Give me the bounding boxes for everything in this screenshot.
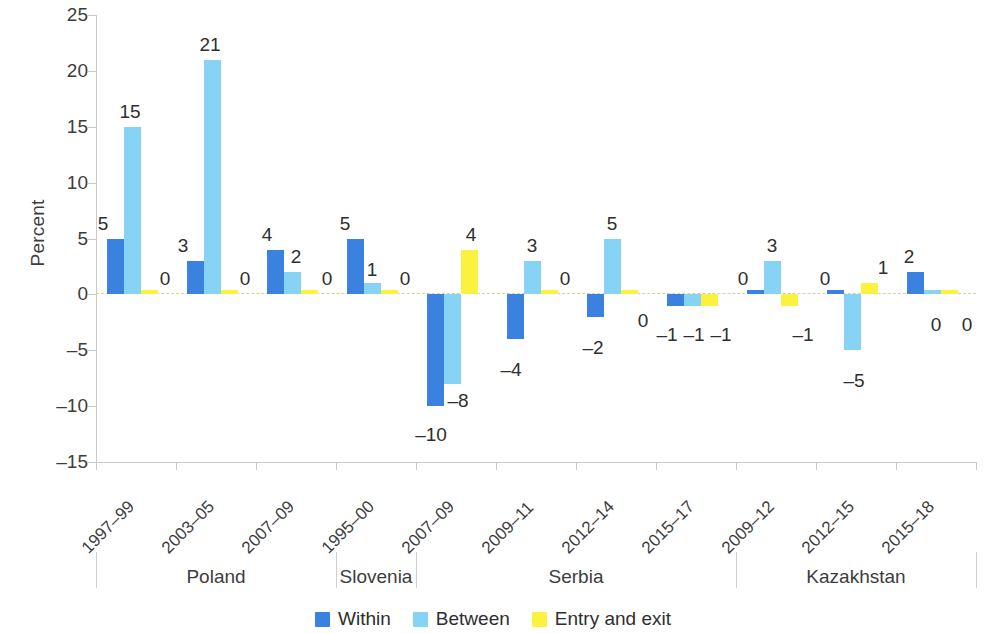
y-axis-tick-labels: 2520151050–5–10–15 [20,0,88,634]
y-axis-tick-mark [88,406,96,407]
y-axis-tick-mark [88,294,96,295]
y-axis-tick-mark [88,15,96,16]
bar-value-label: –1 [710,324,731,346]
bar-value-label: 4 [262,224,273,246]
y-axis-tick-label: 0 [32,283,88,305]
bar-value-label: 5 [98,213,109,235]
y-axis-tick-label: 5 [32,228,88,250]
x-axis-tick-mark [896,462,897,470]
bar-value-label: 0 [962,314,973,336]
bar-value-label: –4 [500,359,521,381]
plot-area: 51503210420510–10–84–430–250–1–1–103–10–… [96,15,976,462]
bar-value-label: –8 [447,390,468,412]
bar [907,272,924,294]
x-axis-tick-mark [736,462,737,470]
bar-value-label: –5 [843,370,864,392]
bar [461,250,478,295]
bar-value-label: –2 [582,337,603,359]
bar-value-label: 2 [291,246,302,268]
bar-value-label: 3 [527,235,538,257]
bar-value-label: 0 [322,268,333,290]
bar [267,250,284,295]
bar-value-label: 0 [820,268,831,290]
bar [284,272,301,294]
y-axis-tick-label: –5 [32,339,88,361]
bar [604,239,621,295]
y-axis-tick-mark [88,239,96,240]
bar-value-label: 4 [466,224,477,246]
y-axis-tick-mark [88,183,96,184]
bar [924,290,941,294]
bar [844,294,861,350]
y-axis-tick-label: –10 [32,395,88,417]
country-group-label: Poland [186,566,245,588]
bar [427,294,444,406]
x-axis-tick-label: 2003–05 [158,497,219,558]
legend-label: Between [436,608,510,630]
bar [621,290,638,294]
bar-value-label: 5 [607,213,618,235]
bar-value-label: 0 [240,268,251,290]
bar-value-label: 0 [638,310,649,332]
bar [107,239,124,295]
bar-value-label: 2 [904,246,915,268]
country-group-separator [416,552,417,588]
x-axis-tick-label: 1995–00 [318,497,379,558]
x-axis-tick-mark [976,462,977,470]
y-axis-tick-label: –15 [32,451,88,473]
bar [764,261,781,295]
x-axis-tick-mark [416,462,417,470]
bar-value-label: –10 [415,424,447,446]
y-axis-tick-label: 25 [32,4,88,26]
bar [221,290,238,294]
bar [347,239,364,295]
country-group-separator [336,552,337,588]
y-axis-tick-mark [88,127,96,128]
x-axis-tick-label: 2009–11 [478,498,538,558]
x-axis-tick-mark [576,462,577,470]
y-axis-tick-mark [88,71,96,72]
x-axis-tick-label: 2015–17 [638,497,699,558]
bar [364,283,381,294]
x-axis-tick-label: 2012–15 [798,497,859,558]
y-axis-tick-label: 10 [32,172,88,194]
country-group-label: Slovenia [340,566,413,588]
bar-value-label: 21 [199,34,220,56]
bar [187,261,204,295]
legend-item[interactable]: Entry and exit [532,608,671,630]
x-axis-tick-label: 2012–14 [558,497,619,558]
bar [941,290,958,294]
bar-value-label: 0 [738,268,749,290]
bar-value-label: –1 [792,324,813,346]
legend-label: Entry and exit [555,608,671,630]
x-axis-tick-mark [96,462,97,470]
bar-value-label: 0 [560,268,571,290]
bar-value-label: 0 [931,314,942,336]
bar-value-label: 3 [767,235,778,257]
legend-swatch-icon [315,612,330,627]
bar [541,290,558,294]
country-group-separator [96,552,97,588]
x-axis-tick-mark [656,462,657,470]
bar [204,60,221,295]
x-axis-tick-mark [816,462,817,470]
country-group-label: Kazakhstan [806,566,905,588]
legend-item[interactable]: Within [315,608,391,630]
bar-value-label: 1 [367,259,378,281]
bar-value-label: 15 [119,101,140,123]
x-axis-tick-label: 2009–12 [718,497,779,558]
country-group-separator [736,552,737,588]
bar [667,294,684,305]
bar [587,294,604,316]
bar [827,290,844,294]
bar [747,290,764,294]
bar-value-label: 0 [160,268,171,290]
country-group-label: Serbia [549,566,604,588]
legend-item[interactable]: Between [413,608,510,630]
x-axis-tick-label: 2007–09 [398,497,459,558]
legend-label: Within [338,608,391,630]
bar [381,290,398,294]
bar-value-label: 5 [340,213,351,235]
x-axis-line [96,462,976,463]
bar-value-label: –1 [656,324,677,346]
